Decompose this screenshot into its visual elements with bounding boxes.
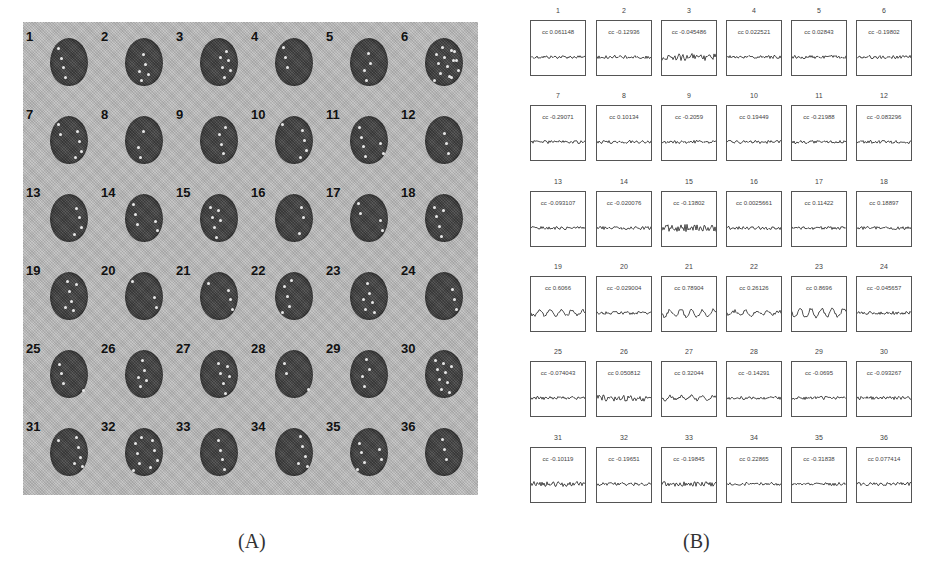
signal-trace <box>857 277 911 331</box>
slice-number: 28 <box>251 341 265 356</box>
timecourse-plot: 20cc -0.029004 <box>596 256 656 340</box>
plot-number: 13 <box>530 178 586 185</box>
brain-slice: 29 <box>323 338 398 416</box>
slice-number: 35 <box>326 419 340 434</box>
plot-number: 8 <box>596 92 652 99</box>
timecourse-plot: 24cc -0.045657 <box>856 256 916 340</box>
timecourse-plot: 16cc 0.0025661 <box>726 171 786 255</box>
timecourse-plot: 13cc -0.093107 <box>530 171 590 255</box>
brain-image <box>350 38 388 86</box>
plot-axes: cc -0.2059 <box>661 105 717 161</box>
timecourse-plot: 27cc 0.32044 <box>661 341 721 425</box>
timecourse-plot: 35cc -0.31838 <box>791 427 851 511</box>
brain-slice: 32 <box>98 416 173 494</box>
plot-axes: cc -0.31838 <box>791 447 847 503</box>
slice-number: 25 <box>26 341 40 356</box>
plot-number: 5 <box>791 7 847 14</box>
signal-trace <box>597 106 651 160</box>
plot-number: 14 <box>596 178 652 185</box>
timecourse-plot: 3cc -0.045486 <box>661 0 721 84</box>
brain-image <box>50 272 88 320</box>
signal-trace <box>727 362 781 416</box>
plot-number: 19 <box>530 263 586 270</box>
signal-trace <box>857 21 911 75</box>
brain-slice: 16 <box>248 182 323 260</box>
brain-slice: 13 <box>23 182 98 260</box>
slice-number: 15 <box>176 185 190 200</box>
brain-slice: 25 <box>23 338 98 416</box>
brain-image <box>50 194 88 242</box>
signal-trace <box>531 192 585 246</box>
plot-axes: cc -0.093107 <box>530 191 586 247</box>
signal-trace <box>792 448 846 502</box>
brain-slice: 3 <box>173 26 248 104</box>
timecourse-plot: 26cc 0.050812 <box>596 341 656 425</box>
slice-number: 21 <box>176 263 190 278</box>
brain-image <box>200 428 238 476</box>
brain-image <box>125 116 163 164</box>
timecourse-plot: 14cc -0.020076 <box>596 171 656 255</box>
brain-image <box>125 38 163 86</box>
slice-number: 24 <box>401 263 415 278</box>
brain-image <box>200 272 238 320</box>
brain-slice: 19 <box>23 260 98 338</box>
plot-number: 15 <box>661 178 717 185</box>
plot-number: 3 <box>661 7 717 14</box>
plot-axes: cc 0.022521 <box>726 20 782 76</box>
timecourse-plot: 7cc -0.29071 <box>530 85 590 169</box>
brain-slice: 18 <box>398 182 473 260</box>
timecourse-plot: 8cc 0.10134 <box>596 85 656 169</box>
plot-axes: cc -0.14291 <box>726 361 782 417</box>
plot-axes: cc -0.29071 <box>530 105 586 161</box>
brain-image <box>275 194 313 242</box>
brain-slice: 35 <box>323 416 398 494</box>
plot-axes: cc 0.11422 <box>791 191 847 247</box>
plot-number: 30 <box>856 348 912 355</box>
brain-slice: 22 <box>248 260 323 338</box>
slice-number: 2 <box>101 29 108 44</box>
plot-number: 18 <box>856 178 912 185</box>
slice-number: 19 <box>26 263 40 278</box>
slice-number: 12 <box>401 107 415 122</box>
caption-a: (A) <box>238 530 266 553</box>
plot-axes: cc 0.19449 <box>726 105 782 161</box>
signal-trace <box>662 448 716 502</box>
slice-number: 7 <box>26 107 33 122</box>
slice-number: 6 <box>401 29 408 44</box>
signal-trace <box>727 21 781 75</box>
brain-image <box>200 350 238 398</box>
signal-trace <box>727 448 781 502</box>
plot-number: 11 <box>791 92 847 99</box>
slice-number: 31 <box>26 419 40 434</box>
plot-number: 36 <box>856 434 912 441</box>
plot-axes: cc 0.32044 <box>661 361 717 417</box>
brain-slice: 34 <box>248 416 323 494</box>
slice-number: 29 <box>326 341 340 356</box>
plot-axes: cc -0.045486 <box>661 20 717 76</box>
brain-slice: 33 <box>173 416 248 494</box>
slice-number: 11 <box>326 107 340 122</box>
plot-axes: cc -0.12936 <box>596 20 652 76</box>
plot-axes: cc 0.061148 <box>530 20 586 76</box>
plot-axes: cc -0.093267 <box>856 361 912 417</box>
brain-image <box>425 428 463 476</box>
slice-number: 4 <box>251 29 258 44</box>
brain-slice: 27 <box>173 338 248 416</box>
plot-axes: cc 0.6066 <box>530 276 586 332</box>
plot-number: 24 <box>856 263 912 270</box>
timecourse-plot: 33cc -0.19845 <box>661 427 721 511</box>
plot-number: 35 <box>791 434 847 441</box>
signal-trace <box>662 277 716 331</box>
brain-image <box>425 272 463 320</box>
timecourse-plot: 4cc 0.022521 <box>726 0 786 84</box>
slice-number: 8 <box>101 107 108 122</box>
plot-number: 1 <box>530 7 586 14</box>
brain-image <box>350 272 388 320</box>
plot-number: 26 <box>596 348 652 355</box>
brain-image <box>125 428 163 476</box>
brain-image <box>50 116 88 164</box>
plot-axes: cc -0.13802 <box>661 191 717 247</box>
slice-number: 23 <box>326 263 340 278</box>
timecourse-plot: 18cc 0.18897 <box>856 171 916 255</box>
plot-number: 23 <box>791 263 847 270</box>
